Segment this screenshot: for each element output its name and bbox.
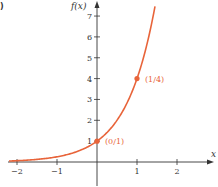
x-tick-label: −1 xyxy=(51,167,63,176)
y-tick-label: 7 xyxy=(87,12,92,21)
panel-label: ) xyxy=(0,2,4,11)
x-tick-label: −2 xyxy=(11,167,23,176)
function-plot: ) x f(x) −2−112 1234567 (0/1)(1/4) xyxy=(0,0,218,187)
x-axis: x xyxy=(8,149,216,165)
y-tick-label: 4 xyxy=(87,75,92,84)
point-marker xyxy=(134,76,139,81)
x-tick-label: 1 xyxy=(134,167,139,176)
y-axis: f(x) xyxy=(70,1,100,186)
point-label: (0/1) xyxy=(105,137,124,146)
y-tick-label: 2 xyxy=(87,116,92,125)
x-axis-title: x xyxy=(211,149,216,159)
y-tick-label: 6 xyxy=(87,33,92,42)
point-marker xyxy=(94,139,99,144)
y-tick-label: 5 xyxy=(87,54,92,63)
x-axis-arrow-icon xyxy=(207,160,214,165)
x-tick-label: 2 xyxy=(174,167,179,176)
function-curve xyxy=(9,6,155,161)
y-axis-arrow-icon xyxy=(95,1,100,8)
y-axis-title: f(x) xyxy=(70,1,87,11)
point-label: (1/4) xyxy=(145,75,164,84)
y-tick-label: 3 xyxy=(87,95,92,104)
y-ticks: 1234567 xyxy=(87,12,100,146)
